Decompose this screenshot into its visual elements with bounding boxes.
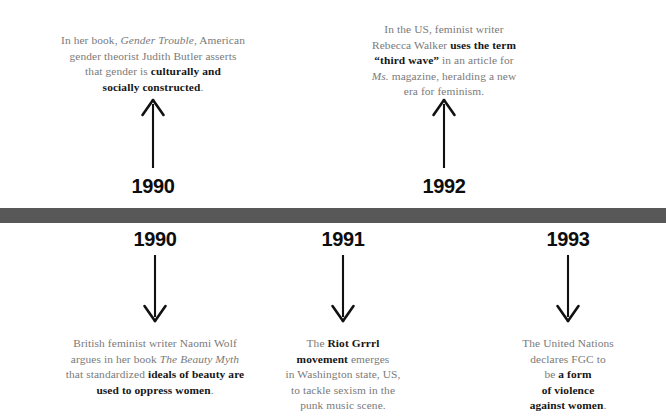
event-text-line: that gender is culturally and (18, 64, 288, 80)
timeline-event-1990-wolf: 1990 British feminist writer Naomi Wolfa… (20, 223, 290, 416)
arrow-up-1992-walker-wrap (330, 98, 558, 170)
event-year-1990-butler: 1990 (18, 175, 288, 198)
event-description-1992-walker: In the US, feminist writerRebecca Walker… (330, 22, 558, 100)
arrow-down-1991-riot-grrrl-wrap (268, 255, 418, 323)
arrow-up-icon (429, 98, 459, 170)
event-text-line: argues in her book The Beauty Myth (20, 352, 290, 368)
event-description-1991-riot-grrrl: The Riot Grrrlmovement emergesin Washing… (268, 336, 418, 414)
event-year-1992-walker: 1992 (330, 175, 558, 198)
event-description-1990-butler: In her book, Gender Trouble, Americangen… (18, 33, 288, 95)
event-text-line: socially constructed. (18, 80, 288, 96)
arrow-down-1993-un-fgc-wrap (494, 255, 642, 323)
timeline-event-1990-butler: In her book, Gender Trouble, Americangen… (18, 0, 288, 208)
event-text-line: British feminist writer Naomi Wolf (20, 336, 290, 352)
timeline-infographic: In her book, Gender Trouble, Americangen… (0, 0, 666, 416)
arrow-down-icon (328, 255, 358, 323)
event-text-line: that standardized ideals of beauty are (20, 367, 290, 383)
event-text-line: punk music scene. (268, 398, 418, 414)
event-text-line: used to oppress women. (20, 383, 290, 399)
event-text-line: declares FGC to (494, 352, 642, 368)
event-text-line: be a form (494, 367, 642, 383)
timeline-event-1991-riot-grrrl: 1991 The Riot Grrrlmovement emergesin Wa… (268, 223, 418, 416)
event-description-1990-wolf: British feminist writer Naomi Wolfargues… (20, 336, 290, 398)
event-description-1993-un-fgc: The United Nationsdeclares FGC tobe a fo… (494, 336, 642, 414)
event-year-1991-riot-grrrl: 1991 (268, 228, 418, 251)
arrow-up-1990-butler-wrap (18, 98, 288, 170)
event-year-1990-wolf: 1990 (20, 228, 290, 251)
event-text-line: to tackle sexism in the (268, 383, 418, 399)
arrow-down-1990-wolf-wrap (20, 255, 290, 323)
timeline-event-1993-un-fgc: 1993 The United Nationsdeclares FGC tobe… (494, 223, 642, 416)
event-text-line: Rebecca Walker uses the term (330, 38, 558, 54)
event-text-line: movement emerges (268, 352, 418, 368)
event-text-line: against women. (494, 398, 642, 414)
event-year-1993-un-fgc: 1993 (494, 228, 642, 251)
event-text-line: gender theorist Judith Butler asserts (18, 49, 288, 65)
event-text-line: of violence (494, 383, 642, 399)
event-text-line: in Washington state, US, (268, 367, 418, 383)
arrow-up-icon (138, 98, 168, 170)
event-text-line: In the US, feminist writer (330, 22, 558, 38)
timeline-bar (0, 208, 666, 223)
event-text-line: The United Nations (494, 336, 642, 352)
event-text-line: The Riot Grrrl (268, 336, 418, 352)
event-text-line: In her book, Gender Trouble, American (18, 33, 288, 49)
event-text-line: “third wave” in an article for (330, 53, 558, 69)
timeline-event-1992-walker: In the US, feminist writerRebecca Walker… (330, 0, 558, 208)
arrow-down-icon (140, 255, 170, 323)
arrow-down-icon (553, 255, 583, 323)
event-text-line: Ms. magazine, heralding a new (330, 69, 558, 85)
